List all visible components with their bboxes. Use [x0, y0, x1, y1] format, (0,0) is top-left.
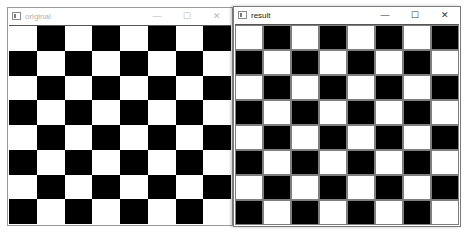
- board-square: [65, 175, 93, 200]
- board-square: [235, 175, 263, 200]
- board-square: [120, 100, 148, 125]
- board-square: [347, 175, 375, 200]
- board-square: [9, 76, 37, 101]
- board-square: [37, 150, 65, 175]
- board-square: [347, 50, 375, 75]
- board-square: [92, 199, 120, 224]
- close-button[interactable]: ✕: [430, 7, 460, 23]
- board-square: [92, 76, 120, 101]
- board-square: [431, 200, 459, 225]
- board-square: [347, 125, 375, 150]
- minimize-button[interactable]: —: [370, 7, 400, 23]
- board-square: [263, 50, 291, 75]
- board-square: [235, 150, 263, 175]
- board-square: [37, 76, 65, 101]
- board-square: [120, 150, 148, 175]
- result-image: [235, 24, 459, 225]
- board-square: [291, 125, 319, 150]
- board-square: [37, 51, 65, 76]
- board-square: [92, 26, 120, 51]
- board-square: [263, 75, 291, 100]
- board-square: [235, 100, 263, 125]
- result-titlebar[interactable]: result — ☐ ✕: [234, 7, 460, 23]
- board-square: [431, 125, 459, 150]
- board-square: [176, 175, 204, 200]
- board-square: [235, 75, 263, 100]
- board-square: [176, 150, 204, 175]
- board-square: [347, 75, 375, 100]
- board-square: [403, 50, 431, 75]
- board-square: [203, 76, 231, 101]
- result-window: result — ☐ ✕: [233, 6, 461, 227]
- board-square: [319, 125, 347, 150]
- board-square: [203, 150, 231, 175]
- board-square: [235, 25, 263, 50]
- board-square: [9, 150, 37, 175]
- board-square: [120, 76, 148, 101]
- board-square: [375, 75, 403, 100]
- board-square: [148, 150, 176, 175]
- board-square: [176, 100, 204, 125]
- app-icon: [238, 11, 247, 19]
- board-square: [9, 125, 37, 150]
- board-square: [37, 175, 65, 200]
- board-square: [120, 26, 148, 51]
- board-square: [176, 26, 204, 51]
- board-square: [9, 175, 37, 200]
- board-square: [203, 100, 231, 125]
- app-icon: [12, 12, 21, 20]
- board-square: [203, 26, 231, 51]
- board-square: [319, 50, 347, 75]
- board-square: [9, 100, 37, 125]
- board-square: [65, 150, 93, 175]
- board-square: [92, 100, 120, 125]
- board-square: [235, 50, 263, 75]
- board-square: [347, 150, 375, 175]
- board-square: [375, 125, 403, 150]
- board-square: [375, 175, 403, 200]
- board-square: [203, 175, 231, 200]
- board-square: [291, 100, 319, 125]
- board-square: [403, 25, 431, 50]
- board-square: [120, 125, 148, 150]
- board-square: [176, 76, 204, 101]
- minimize-button[interactable]: —: [142, 8, 172, 24]
- board-square: [148, 26, 176, 51]
- board-square: [65, 100, 93, 125]
- board-square: [92, 175, 120, 200]
- board-square: [9, 199, 37, 224]
- board-square: [403, 75, 431, 100]
- board-square: [291, 150, 319, 175]
- board-square: [148, 125, 176, 150]
- board-square: [403, 100, 431, 125]
- board-square: [120, 51, 148, 76]
- original-titlebar[interactable]: original — ☐ ✕: [8, 8, 232, 24]
- board-square: [176, 125, 204, 150]
- maximize-button[interactable]: ☐: [172, 8, 202, 24]
- board-square: [319, 100, 347, 125]
- board-square: [319, 200, 347, 225]
- original-image: [9, 25, 231, 224]
- board-square: [319, 175, 347, 200]
- board-square: [65, 76, 93, 101]
- board-square: [263, 125, 291, 150]
- board-square: [431, 50, 459, 75]
- board-square: [291, 175, 319, 200]
- close-button[interactable]: ✕: [202, 8, 232, 24]
- board-square: [9, 51, 37, 76]
- board-square: [65, 51, 93, 76]
- board-square: [37, 26, 65, 51]
- board-square: [431, 100, 459, 125]
- maximize-button[interactable]: ☐: [400, 7, 430, 23]
- board-square: [291, 25, 319, 50]
- board-square: [403, 150, 431, 175]
- board-square: [65, 199, 93, 224]
- window-title: result: [251, 11, 271, 20]
- board-square: [375, 200, 403, 225]
- board-square: [431, 150, 459, 175]
- board-square: [203, 125, 231, 150]
- board-square: [263, 25, 291, 50]
- board-square: [403, 125, 431, 150]
- board-square: [375, 25, 403, 50]
- board-square: [176, 199, 204, 224]
